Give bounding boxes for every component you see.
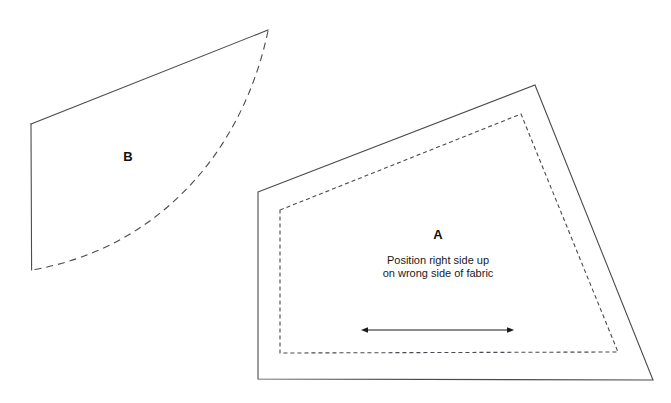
piece-a-label: A xyxy=(433,227,443,242)
pattern-diagram-canvas: B A Position right side up on wrong side… xyxy=(0,0,671,403)
pattern-pieces-svg: B A Position right side up on wrong side… xyxy=(0,0,671,403)
pattern-piece-b[interactable]: B xyxy=(31,30,268,270)
piece-a-cutting-line xyxy=(258,85,653,380)
piece-a-instruction-line-2: on wrong side of fabric xyxy=(383,267,494,279)
piece-b-dashed-curve xyxy=(32,31,268,270)
piece-b-label: B xyxy=(123,149,132,164)
piece-b-top-edge xyxy=(31,30,268,124)
piece-a-instruction-line-1: Position right side up xyxy=(387,254,489,266)
piece-b-left-edge xyxy=(31,124,32,270)
piece-a-seam-line xyxy=(280,114,618,353)
pattern-piece-a[interactable]: A Position right side up on wrong side o… xyxy=(258,85,653,380)
